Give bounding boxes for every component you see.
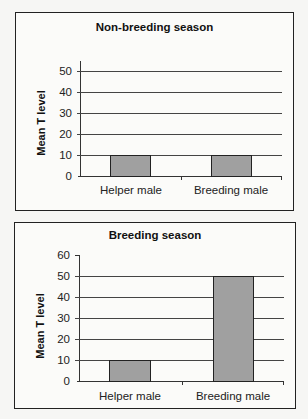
- plot-area: 0 10 20 30 40 50 60 Helper male Breeding…: [15, 223, 297, 410]
- x-tick: [182, 381, 183, 385]
- y-tick-label: 60: [46, 249, 70, 261]
- plot-area: 0 10 20 30 40 50 Helper male Breeding ma…: [16, 13, 295, 212]
- bar-breeding-male: [213, 276, 254, 382]
- y-tick-label: 10: [48, 149, 72, 161]
- y-tick-label: 10: [46, 354, 70, 366]
- x-category-label: Breeding male: [183, 390, 283, 402]
- y-axis: [80, 61, 81, 177]
- gridline-30: [77, 113, 282, 114]
- bar-helper-male: [109, 360, 151, 382]
- x-category-label: Helper male: [81, 184, 181, 196]
- chart-panel-breeding: Breeding season Mean T level 0 10 20 30 …: [14, 222, 296, 409]
- y-tick-label: 0: [46, 375, 70, 387]
- chart-panel-non-breeding: Non-breeding season Mean T level 0 10 20…: [15, 12, 294, 211]
- gridline-20: [77, 134, 282, 135]
- y-tick-label: 20: [48, 128, 72, 140]
- y-tick-60: [75, 255, 80, 256]
- x-tick: [181, 176, 182, 180]
- y-tick-label: 30: [46, 312, 70, 324]
- gridline-50: [77, 71, 282, 72]
- bar-breeding-male: [211, 155, 252, 177]
- x-category-label: Helper male: [80, 390, 180, 402]
- y-tick-label: 40: [48, 86, 72, 98]
- bar-helper-male: [110, 155, 151, 177]
- y-tick-label: 50: [46, 270, 70, 282]
- y-tick-label: 50: [48, 65, 72, 77]
- y-tick-label: 40: [46, 291, 70, 303]
- x-category-label: Breeding male: [181, 184, 281, 196]
- gridline-40: [77, 92, 282, 93]
- y-tick-label: 30: [48, 107, 72, 119]
- x-tick: [283, 381, 284, 385]
- x-tick: [281, 176, 282, 180]
- y-tick-label: 0: [48, 170, 72, 182]
- y-tick-label: 20: [46, 333, 70, 345]
